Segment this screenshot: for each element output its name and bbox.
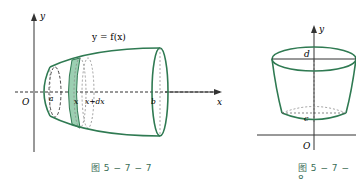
cup-diagram: d c y O xyxy=(240,0,356,179)
y-axis-arrow-icon xyxy=(311,25,317,33)
figure-5-7-8: d c y O 图 5 − 7 − 8 xyxy=(240,0,356,179)
x-plus-dx-label: x+dx xyxy=(85,97,105,106)
caption-5-7-7: 图 5 − 7 − 7 xyxy=(91,161,152,174)
origin-label: O xyxy=(303,141,311,151)
c-label: c xyxy=(304,114,309,123)
x-value-label: x xyxy=(74,97,79,106)
b-label: b xyxy=(151,97,156,106)
y-label: y xyxy=(39,11,46,21)
y-axis-arrow-icon xyxy=(31,13,37,21)
a-label: a xyxy=(49,94,53,103)
origin-label: O xyxy=(22,97,30,107)
x-axis-arrow-icon xyxy=(214,89,222,95)
d-label: d xyxy=(304,49,310,59)
x-label: x xyxy=(217,97,222,107)
caption-5-7-8: 图 5 − 7 − 8 xyxy=(298,161,356,179)
y-label: y xyxy=(318,24,325,34)
figure-5-7-7: y x O y = f(x) a x x+dx b 图 5 − 7 − 7 xyxy=(0,0,240,179)
function-label: y = f(x) xyxy=(91,32,126,42)
solid-of-revolution-diagram: y x O y = f(x) a x x+dx b xyxy=(0,0,240,179)
